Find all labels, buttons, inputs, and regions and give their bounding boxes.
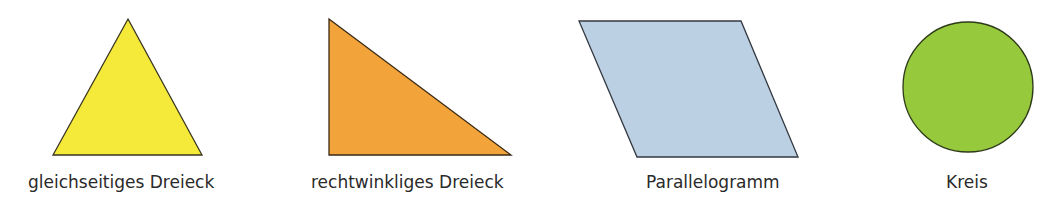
right-triangle-shape [329, 19, 511, 155]
parallelogram-label: Parallelogramm [646, 172, 780, 192]
equilateral-triangle-shape [53, 19, 202, 155]
right-triangle-label: rechtwinkliges Dreieck [311, 172, 504, 192]
equilateral-triangle-label: gleichseitiges Dreieck [28, 172, 214, 192]
circle-shape [903, 22, 1033, 152]
circle-label: Kreis [946, 172, 988, 192]
parallelogram-shape [579, 21, 798, 157]
